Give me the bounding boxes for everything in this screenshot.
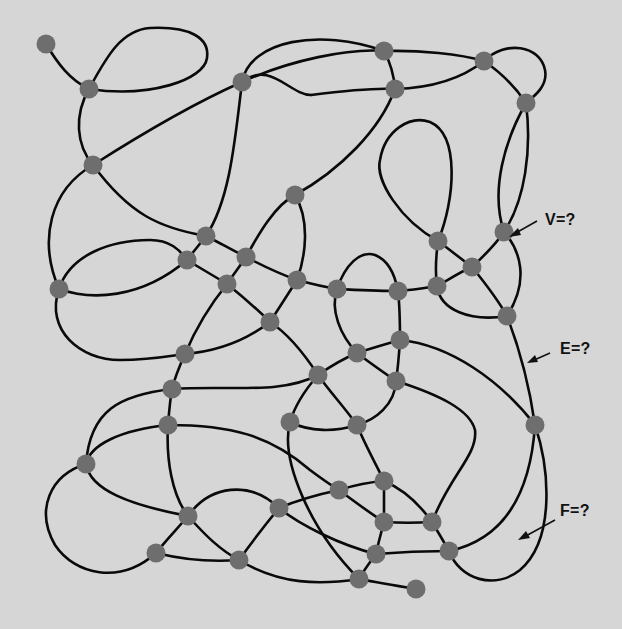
graph-vertex (348, 416, 367, 435)
graph-vertex (429, 232, 448, 251)
graph-vertex (475, 52, 494, 71)
edge (337, 254, 398, 291)
graph-vertex (350, 570, 369, 589)
graph-vertex (440, 542, 459, 561)
graph-vertex (197, 227, 216, 246)
graph-vertex (286, 186, 305, 205)
vertex-count-label: V=? (545, 211, 576, 229)
graph-vertex (423, 513, 442, 532)
graph-vertex (178, 251, 197, 270)
edge (318, 375, 357, 425)
edge (188, 490, 279, 516)
graph-vertex (176, 345, 195, 364)
graph-vertex (309, 366, 328, 385)
edge (206, 82, 242, 236)
graph-vertex (375, 513, 394, 532)
graph-vertex (233, 73, 252, 92)
edge (86, 425, 168, 464)
edge (400, 340, 535, 425)
graph-vertex (348, 344, 367, 363)
graph-vertex (270, 499, 289, 518)
graph-vertex (375, 42, 394, 61)
edge (295, 89, 395, 195)
edge (311, 89, 395, 95)
edge (188, 516, 239, 560)
edge (379, 120, 451, 241)
edge (168, 425, 188, 516)
edge (484, 48, 545, 103)
edge (172, 375, 318, 389)
edge (89, 28, 207, 92)
edge (396, 381, 475, 522)
edge (295, 195, 305, 280)
graph-vertex (84, 156, 103, 175)
graph-edges (46, 28, 546, 589)
edge (504, 232, 521, 316)
graph-vertex (367, 545, 386, 564)
graph-vertex (428, 277, 447, 296)
edge (449, 425, 535, 551)
face-arrow-head (518, 531, 530, 540)
edge (395, 61, 484, 89)
graph-vertex (386, 80, 405, 99)
label-arrows (509, 221, 555, 540)
edge (239, 560, 359, 582)
edge (279, 508, 376, 554)
graph-vertex (77, 455, 96, 474)
graph-vertex (237, 248, 256, 267)
edge (93, 82, 242, 165)
graph-vertex (498, 307, 517, 326)
edge-count-label: E=? (560, 340, 591, 358)
edge (56, 289, 185, 360)
graph-vertex (387, 372, 406, 391)
graph-vertex (407, 580, 426, 599)
edge (46, 464, 156, 573)
graph-vertex (179, 507, 198, 526)
graph-vertex (50, 280, 69, 299)
graph-vertex (375, 472, 394, 491)
edge (384, 51, 484, 61)
graph-vertex (163, 380, 182, 399)
graph-vertex (517, 94, 536, 113)
graph-vertex (159, 416, 178, 435)
graph-vertex (288, 271, 307, 290)
edge (49, 165, 93, 289)
graph-vertex (218, 275, 237, 294)
graph-vertex (147, 544, 166, 563)
edge (156, 553, 239, 561)
edge (242, 51, 384, 82)
graph-vertex (389, 282, 408, 301)
face-count-label: F=? (560, 502, 590, 520)
edge (437, 286, 507, 318)
edge (239, 508, 279, 560)
graph-vertex (330, 481, 349, 500)
graph-vertex (328, 280, 347, 299)
edge (246, 195, 295, 257)
graph-diagram: V=? E=? F=? (0, 0, 622, 629)
edge (168, 425, 339, 490)
edge (59, 240, 187, 289)
edge-arrow-head (527, 355, 538, 363)
edge (290, 422, 357, 430)
graph-vertex (391, 331, 410, 350)
graph-vertex (526, 416, 545, 435)
edge (59, 260, 187, 295)
edge (335, 289, 357, 353)
graph-vertex (80, 80, 99, 99)
graph-vertex (495, 223, 514, 242)
graph-vertex (463, 258, 482, 277)
graph-vertex (281, 413, 300, 432)
edge (79, 89, 93, 165)
edge (499, 103, 526, 232)
edge (270, 322, 318, 375)
graph-vertex (230, 551, 249, 570)
graph-canvas (0, 0, 622, 629)
face-arrow-line (524, 520, 555, 537)
edge (93, 165, 206, 236)
edge (376, 551, 449, 554)
graph-vertex (37, 35, 56, 54)
graph-vertex (261, 313, 280, 332)
edge (86, 464, 188, 516)
edge (185, 284, 227, 354)
